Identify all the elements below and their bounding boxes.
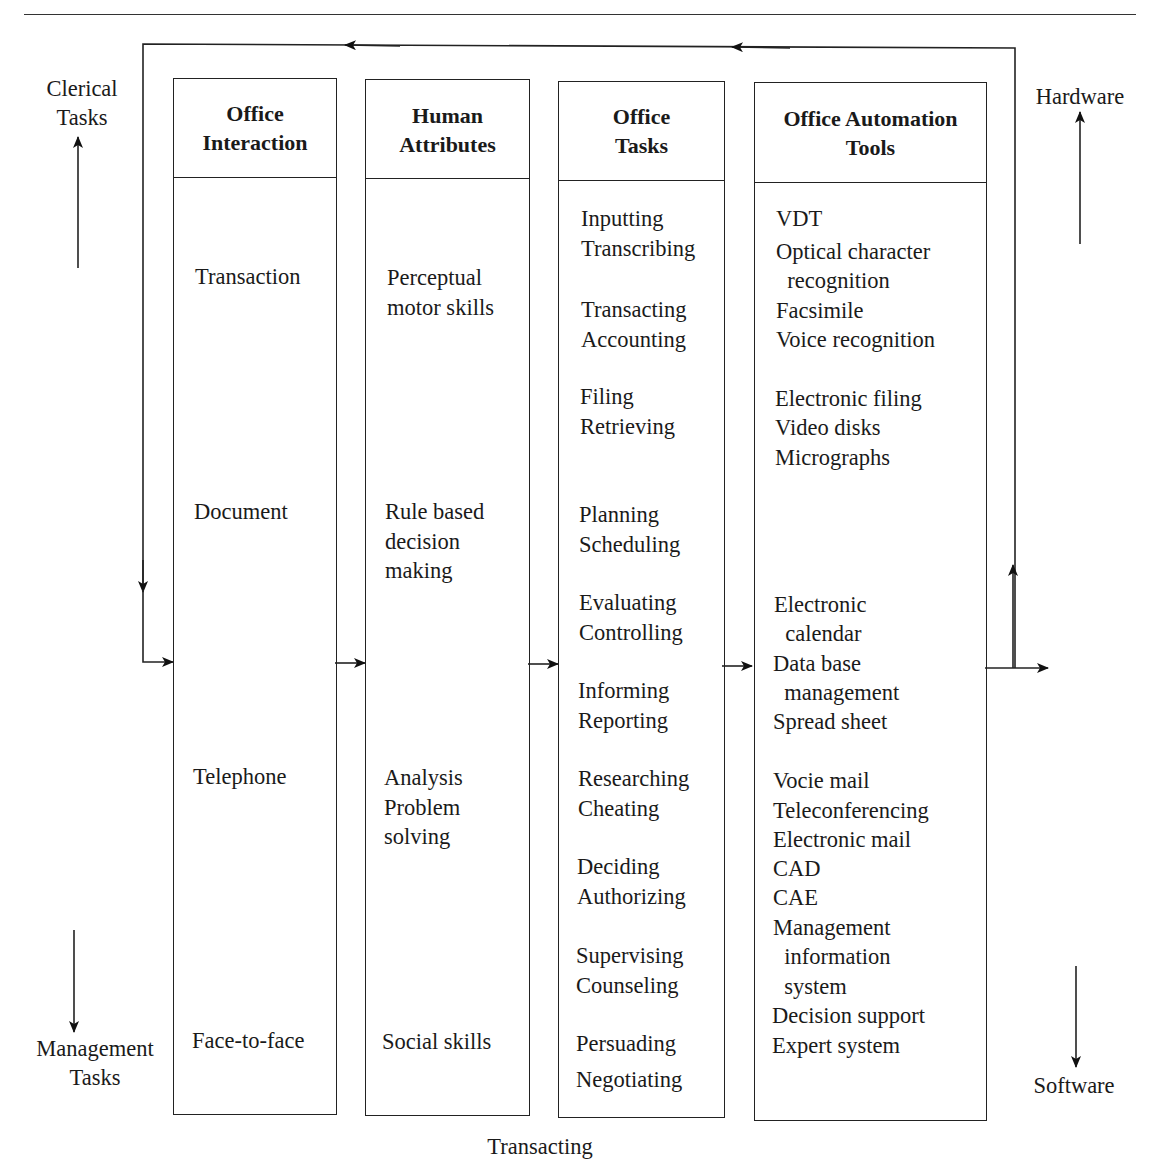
- office-automation-tools-item: Electronic filing: [775, 384, 922, 414]
- header-divider: [558, 180, 725, 181]
- clerical-tasks-label: Clerical Tasks: [30, 74, 134, 132]
- office-automation-tools-item: VDT: [776, 204, 822, 234]
- office-automation-tools-item: calendar: [774, 619, 861, 649]
- office-tasks-item: Informing Reporting: [578, 676, 669, 735]
- office-automation-tools-item: recognition: [776, 266, 890, 296]
- office-automation-tools-item: Video disks: [775, 413, 881, 443]
- office-automation-tools-item: Voice recognition: [776, 325, 935, 355]
- office-tasks-item: Supervising Counseling: [576, 941, 684, 1000]
- header-divider: [754, 182, 987, 183]
- header-divider: [173, 177, 337, 178]
- column-office-interaction: [173, 78, 337, 1115]
- office-automation-tools-item: Optical character: [776, 237, 930, 267]
- office-automation-tools-item: system: [773, 972, 847, 1002]
- header-divider: [365, 178, 530, 179]
- human-attributes-item: Rule based decision making: [385, 497, 484, 586]
- office-automation-tools-item: Facsimile: [776, 296, 863, 326]
- column-title-office-automation-tools: Office Automation Tools: [754, 104, 987, 162]
- office-tasks-item: Deciding Authorizing: [577, 852, 686, 911]
- column-title-office-interaction: Office Interaction: [173, 99, 337, 157]
- office-automation-tools-item: Data base: [773, 649, 861, 679]
- office-automation-tools-item: Vocie mail: [773, 766, 869, 796]
- office-interaction-item: Transaction: [195, 262, 300, 292]
- office-tasks-item: Inputting Transcribing: [581, 204, 695, 263]
- software-label: Software: [1014, 1071, 1134, 1100]
- office-tasks-item: Negotiating: [576, 1065, 682, 1095]
- office-automation-tools-item: Spread sheet: [773, 707, 887, 737]
- column-human-attributes: [365, 79, 530, 1116]
- column-title-human-attributes: Human Attributes: [365, 101, 530, 159]
- office-interaction-item: Telephone: [193, 762, 286, 792]
- human-attributes-item: Social skills: [382, 1027, 491, 1057]
- office-automation-tools-item: Micrographs: [775, 443, 890, 473]
- human-attributes-item: Perceptual motor skills: [387, 263, 494, 322]
- office-tasks-item: Persuading: [576, 1029, 676, 1059]
- office-tasks-item: Planning Scheduling: [579, 500, 680, 559]
- office-automation-tools-item: Decision support: [772, 1001, 925, 1031]
- office-tasks-item: Transacting Accounting: [581, 295, 686, 354]
- office-automation-tools-item: Electronic: [774, 590, 866, 620]
- office-tasks-item: Evaluating Controlling: [579, 588, 683, 647]
- office-automation-tools-item: Management: [773, 913, 890, 943]
- human-attributes-item: Analysis Problem solving: [384, 763, 463, 852]
- office-tasks-item: Researching Cheating: [578, 764, 689, 823]
- management-tasks-label: Management Tasks: [20, 1034, 170, 1092]
- office-interaction-item: Document: [194, 497, 288, 527]
- office-automation-tools-item: CAD: [773, 854, 821, 884]
- office-automation-tools-item: Electronic mail: [773, 825, 911, 855]
- office-automation-tools-item: CAE: [773, 883, 818, 913]
- column-title-office-tasks: Office Tasks: [558, 102, 725, 160]
- hardware-label: Hardware: [1020, 82, 1140, 111]
- office-tasks-item: Filing Retrieving: [580, 382, 675, 441]
- office-automation-tools-item: information: [773, 942, 890, 972]
- office-automation-tools-item: Teleconferencing: [773, 796, 929, 826]
- office-automation-tools-item: management: [773, 678, 899, 708]
- transacting-label: Transacting: [460, 1132, 620, 1161]
- office-automation-tools-item: Expert system: [772, 1031, 900, 1061]
- office-interaction-item: Face-to-face: [192, 1026, 304, 1056]
